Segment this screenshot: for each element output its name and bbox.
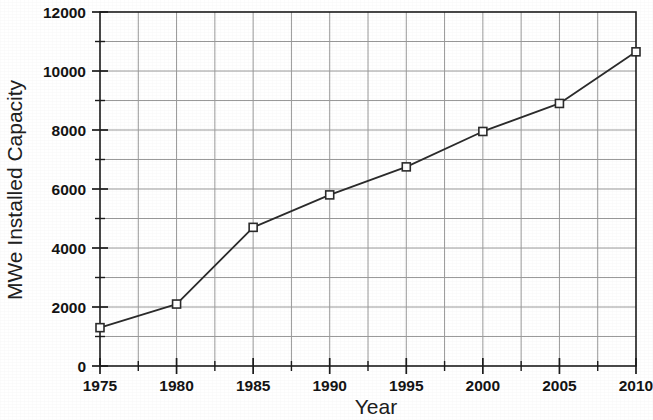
data-point-marker <box>479 127 487 135</box>
data-point-marker <box>555 99 563 107</box>
data-point-marker <box>326 191 334 199</box>
data-point-marker <box>173 300 181 308</box>
data-point-marker <box>96 324 104 332</box>
y-tick-label: 2000 <box>52 299 86 316</box>
x-tick-label: 1995 <box>389 377 424 394</box>
data-point-marker <box>249 223 257 231</box>
x-tick-label: 1990 <box>312 377 346 394</box>
x-tick-label: 2010 <box>619 377 653 394</box>
y-tick-label: 4000 <box>52 240 86 257</box>
y-axis-title: MWe Installed Capacity <box>3 79 26 300</box>
y-tick-label: 0 <box>77 358 86 375</box>
y-tick-label: 10000 <box>43 63 86 80</box>
chart-background <box>0 0 653 420</box>
x-tick-label: 2005 <box>542 377 577 394</box>
x-tick-label: 2000 <box>466 377 500 394</box>
data-point-marker <box>402 163 410 171</box>
y-tick-label: 8000 <box>52 122 86 139</box>
x-tick-label: 1980 <box>159 377 193 394</box>
y-tick-label: 12000 <box>43 4 86 21</box>
data-point-marker <box>632 48 640 56</box>
x-tick-label: 1985 <box>236 377 271 394</box>
y-tick-label: 6000 <box>52 181 86 198</box>
chart-canvas: 0200040006000800010000120001975198019851… <box>0 0 653 420</box>
capacity-line-chart: 0200040006000800010000120001975198019851… <box>0 0 653 420</box>
x-axis-title: Year <box>355 395 397 418</box>
x-tick-label: 1975 <box>83 377 118 394</box>
